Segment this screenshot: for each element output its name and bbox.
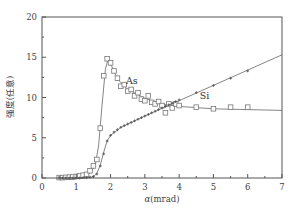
x-axis-unit: (mrad) bbox=[150, 194, 179, 204]
square-marker bbox=[115, 76, 120, 81]
square-marker bbox=[245, 105, 250, 110]
x-tick-label: 0 bbox=[39, 182, 44, 192]
x-tick-label: 1 bbox=[74, 182, 79, 192]
x-tick-label: 3 bbox=[142, 182, 147, 192]
square-marker bbox=[211, 106, 216, 111]
y-tick-label: 5 bbox=[32, 133, 37, 143]
square-marker bbox=[228, 105, 233, 110]
x-tick-label: 6 bbox=[245, 182, 250, 192]
y-tick-label: 15 bbox=[26, 52, 37, 62]
square-marker bbox=[112, 69, 117, 74]
square-marker bbox=[95, 157, 100, 162]
square-marker bbox=[98, 126, 103, 131]
plus-marker bbox=[140, 116, 143, 119]
square-marker bbox=[88, 168, 93, 173]
square-marker bbox=[91, 164, 96, 169]
y-tick-label: 10 bbox=[26, 93, 37, 103]
axes-frame bbox=[42, 17, 282, 178]
series-group bbox=[57, 55, 282, 180]
square-marker bbox=[194, 105, 199, 110]
x-tick-label: 2 bbox=[108, 182, 113, 192]
square-marker bbox=[101, 73, 106, 78]
series-as bbox=[57, 57, 282, 180]
plus-marker bbox=[212, 84, 215, 87]
square-marker bbox=[177, 103, 182, 108]
square-marker bbox=[108, 61, 113, 66]
plus-marker bbox=[95, 173, 98, 176]
square-marker bbox=[129, 87, 134, 92]
series-label-as: As bbox=[125, 75, 138, 86]
series-si bbox=[58, 55, 282, 180]
x-tick-label: 7 bbox=[279, 182, 284, 192]
plus-marker bbox=[143, 115, 146, 118]
series-label-si: Si bbox=[200, 90, 210, 101]
square-marker bbox=[146, 94, 151, 99]
x-tick-label: 4 bbox=[176, 182, 181, 192]
x-axis-title: α(mrad) bbox=[144, 194, 179, 204]
y-tick-label: 20 bbox=[26, 12, 37, 22]
plus-marker bbox=[137, 118, 140, 121]
y-axis-title: 强度(任意) bbox=[5, 76, 15, 119]
square-marker bbox=[136, 90, 141, 95]
y-tick-label: 0 bbox=[32, 173, 37, 183]
chart: 0123456705101520 α(mrad) 强度(任意) As Si bbox=[0, 0, 294, 214]
square-marker bbox=[163, 110, 168, 115]
series-curve bbox=[59, 55, 282, 178]
series-curve bbox=[59, 60, 282, 178]
plus-marker bbox=[133, 119, 136, 122]
x-tick-label: 5 bbox=[211, 182, 216, 192]
square-marker bbox=[143, 98, 148, 103]
